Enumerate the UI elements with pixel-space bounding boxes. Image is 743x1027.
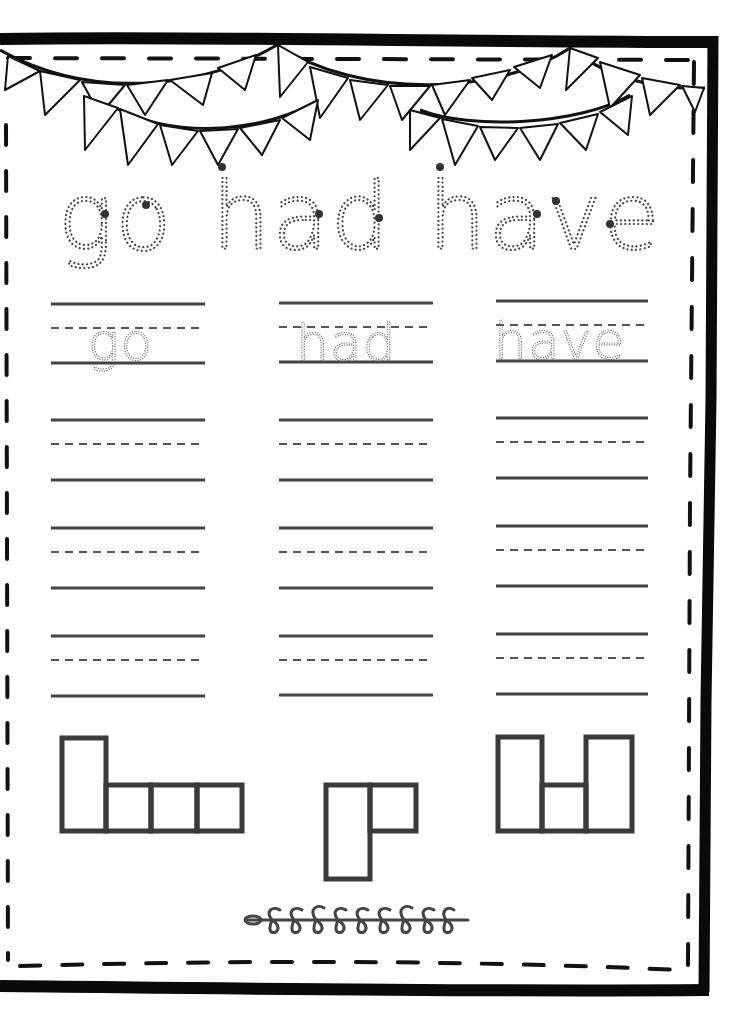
leaf-vine-icon [245, 907, 468, 933]
leaf-vine [0, 0, 743, 960]
frame-bottom [0, 986, 709, 991]
inner-dashed-bottom [20, 962, 682, 970]
worksheet-page: go had have go [0, 0, 743, 1027]
